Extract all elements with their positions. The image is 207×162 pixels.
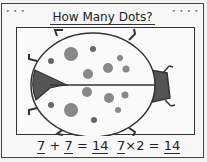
addition-equation: 7 + 7 = 14 (37, 138, 108, 153)
multiplication-equation: 7×2 = 14 (117, 138, 180, 153)
picture-frame (16, 27, 195, 135)
ladybug-icon (17, 28, 196, 136)
worksheet-card: • • • • • • • How Many Dots? (1, 3, 204, 158)
page-title: How Many Dots? (2, 10, 203, 24)
